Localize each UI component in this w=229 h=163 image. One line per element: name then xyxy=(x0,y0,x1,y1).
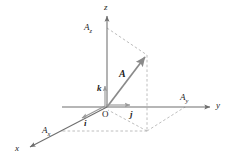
dashed-plane-corner-to-yaxis xyxy=(147,107,185,131)
unit-vector-k-label: k xyxy=(97,84,102,93)
diagram-canvas xyxy=(0,0,229,163)
dashed-az-to-tip xyxy=(107,28,147,55)
x-axis-label: x xyxy=(15,144,19,153)
unit-vector-j-label: j xyxy=(130,110,133,119)
unit-vector-i-label: i xyxy=(84,119,87,128)
component-ax-sub: x xyxy=(48,130,51,137)
y-axis-label: y xyxy=(216,101,220,110)
dashed-plane-corner-to-origin xyxy=(108,110,147,131)
vector-a-arrow xyxy=(107,57,145,107)
axis-lines xyxy=(30,16,210,147)
z-axis-label: z xyxy=(104,3,108,12)
component-az-label: Az xyxy=(84,23,92,34)
vector-a-label: A xyxy=(119,69,126,79)
component-ax-label: Ax xyxy=(42,126,50,137)
vector-components-figure: z y x Az Ay Ax A k j i O xyxy=(0,0,229,163)
component-az-sub: z xyxy=(90,27,93,34)
origin-label: O xyxy=(102,110,109,119)
component-ay-label: Ay xyxy=(180,93,188,104)
construction-lines xyxy=(62,28,185,132)
component-ay-sub: y xyxy=(186,97,189,104)
